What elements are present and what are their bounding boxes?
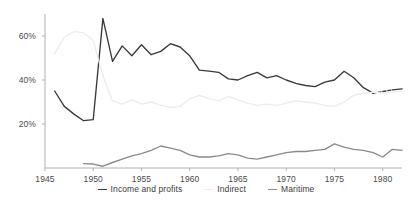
- line-chart: 20%40%60%1945195019551960196519701975198…: [0, 0, 412, 206]
- legend-item-income-and-profits[interactable]: Income and profits: [98, 184, 183, 194]
- axis-lines: [45, 14, 402, 168]
- legend-item-maritime[interactable]: Maritime: [268, 184, 314, 194]
- x-axis-tick-label: 1980: [363, 174, 403, 184]
- y-axis-tick-label: 20%: [0, 119, 36, 129]
- series-line-indirect: [55, 32, 402, 108]
- x-axis-tick-label: 1970: [266, 174, 306, 184]
- data-series-group: [55, 18, 402, 166]
- x-axis-tick-label: 1950: [73, 174, 113, 184]
- legend-line-icon: [98, 189, 107, 190]
- legend-item-indirect[interactable]: Indirect: [204, 184, 246, 194]
- x-axis-tick-label: 1960: [170, 174, 210, 184]
- y-axis-tick-label: 40%: [0, 75, 36, 85]
- series-line-income-and-profits: [392, 89, 402, 90]
- legend-line-icon: [204, 189, 213, 190]
- legend-label: Maritime: [281, 184, 314, 194]
- x-axis-tick-label: 1965: [218, 174, 258, 184]
- x-axis-tick-label: 1945: [25, 174, 65, 184]
- x-axis-tick-label: 1955: [121, 174, 161, 184]
- series-line-maritime: [84, 144, 402, 166]
- legend-label: Income and profits: [111, 184, 183, 194]
- y-axis-tick-label: 60%: [0, 31, 36, 41]
- chart-legend: Income and profitsIndirectMaritime: [0, 184, 412, 194]
- x-axis-tick-label: 1975: [314, 174, 354, 184]
- legend-label: Indirect: [217, 184, 246, 194]
- legend-line-icon: [268, 189, 277, 190]
